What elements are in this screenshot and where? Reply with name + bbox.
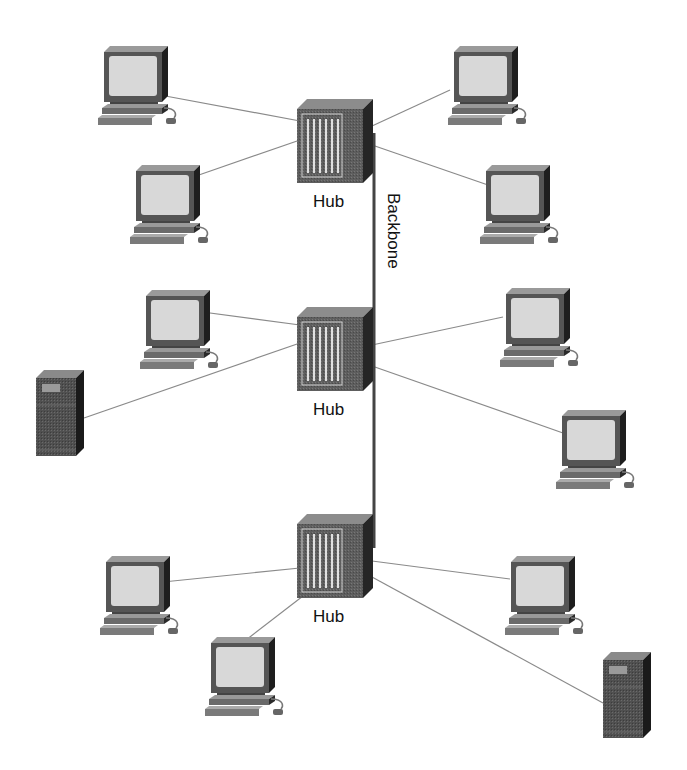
link-line — [160, 95, 300, 121]
hub-icon — [297, 307, 373, 391]
hub-icon — [297, 514, 373, 598]
computer-icon — [130, 165, 208, 244]
hub: Hub — [297, 99, 373, 211]
computer-icon — [500, 288, 578, 367]
computer-icon — [98, 46, 176, 125]
hub: Hub — [297, 307, 373, 419]
computer-icon — [100, 556, 178, 635]
hub-label: Hub — [313, 192, 344, 211]
hubs: HubHubHub — [297, 99, 373, 626]
hub-label: Hub — [313, 607, 344, 626]
computer-icon — [448, 46, 526, 125]
link-line — [372, 145, 488, 185]
computer-icon — [205, 637, 283, 716]
computer-icon — [505, 556, 583, 635]
link-line — [163, 568, 300, 582]
link-line — [196, 140, 300, 176]
link-line — [195, 311, 300, 325]
link-line — [372, 90, 450, 126]
computer-icon — [556, 410, 634, 489]
link-line — [372, 561, 510, 579]
computer-icon — [480, 165, 558, 244]
server-icon — [603, 652, 651, 738]
hub-icon — [297, 99, 373, 183]
backbone-label: Backbone — [384, 193, 403, 269]
computer-icon — [140, 290, 218, 369]
link-line — [372, 366, 563, 433]
hub-label: Hub — [313, 400, 344, 419]
link-line — [372, 317, 503, 345]
hub: Hub — [297, 514, 373, 626]
network-diagram: HubHubHub Backbone — [0, 0, 687, 770]
server-icon — [36, 370, 84, 456]
